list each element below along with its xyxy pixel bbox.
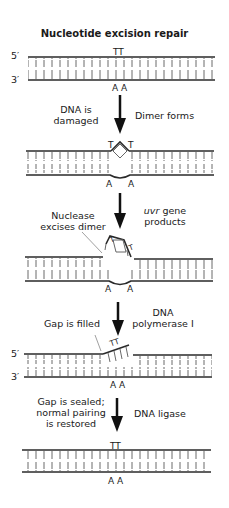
panel-3-dimer-excised — [25, 232, 213, 285]
arrow-down-icon — [114, 193, 126, 229]
adenine-label: A — [106, 179, 112, 189]
adenine-pair-label: A A — [108, 476, 123, 486]
dna-repair-diagram — [0, 0, 229, 508]
step-4-left-label: Gap is sealed;normal pairingis restored — [34, 396, 108, 429]
five-prime-label: 5′ — [11, 50, 19, 61]
step-2-right-label: uvr gene products — [140, 205, 190, 227]
thymine-label: T — [108, 140, 114, 150]
step-1-right-label: Dimer forms — [135, 110, 194, 121]
step-2-left-label: Nucleaseexcises dimer — [40, 210, 106, 232]
arrow-down-icon — [114, 95, 126, 134]
step-1-left-label: DNA isdamaged — [50, 104, 102, 126]
five-prime-label: 5′ — [11, 348, 19, 359]
step-3-right-label: DNApolymerase I — [130, 307, 196, 329]
panel-2-dimer-formed — [26, 142, 214, 178]
step-3-left-label: Gap is filled — [44, 318, 100, 329]
adenine-label: A — [105, 284, 111, 294]
adenine-label: A — [128, 179, 134, 189]
arrow-down-icon — [111, 398, 123, 432]
panel-1-intact-dna — [28, 57, 215, 80]
arrow-down-icon — [112, 302, 124, 336]
adenine-pair-label: A A — [110, 380, 125, 390]
step-4-right-label: DNA ligase — [134, 408, 186, 419]
three-prime-label: 3′ — [11, 371, 19, 382]
thymine-label: T — [128, 140, 134, 150]
adenine-label: A — [127, 284, 133, 294]
thymine-pair-label: TT — [113, 47, 124, 57]
three-prime-label: 3′ — [11, 74, 19, 85]
panel-5-repaired-dna — [22, 450, 211, 472]
thymine-pair-label: TT — [110, 441, 121, 451]
adenine-pair-label: A A — [112, 83, 127, 93]
